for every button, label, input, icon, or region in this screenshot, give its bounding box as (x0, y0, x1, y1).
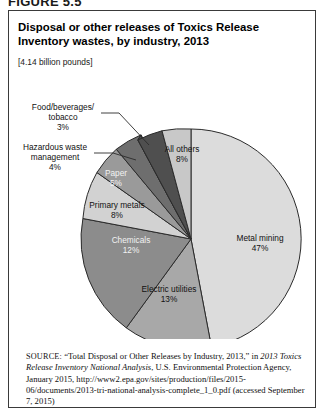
callout-hazwaste-value: 4% (15, 162, 95, 172)
source-part1: “Total Disposal or Other Releases by Ind… (62, 351, 260, 361)
figure-number: FIGURE 5.5 (8, 0, 82, 9)
pie-chart: Metal mining 47% Electric utilities 13% … (9, 69, 315, 339)
source-note: SOURCE: “Total Disposal or Other Release… (26, 351, 310, 407)
callout-hazwaste-line1: Hazardous waste (15, 142, 95, 152)
callout-label-food-beverages-tobacco: Food/beverages/ tobacco 3% (23, 102, 103, 132)
callout-food-value: 3% (23, 122, 103, 132)
callout-label-hazardous-waste-management: Hazardous waste management 4% (15, 142, 95, 172)
pie-slices (81, 129, 301, 339)
callout-food-line1: Food/beverages/ (23, 102, 103, 112)
callout-food-line2: tobacco (23, 112, 103, 122)
units-note: [4.14 billion pounds] (18, 57, 93, 67)
callout-hazwaste-line2: management (15, 152, 95, 162)
figure-box: Disposal or other releases of Toxics Rel… (8, 10, 316, 408)
source-lead: SOURCE: (26, 352, 62, 361)
page-title: Disposal or other releases of Toxics Rel… (18, 21, 306, 48)
pie-slice-metal-mining[interactable] (191, 129, 301, 339)
